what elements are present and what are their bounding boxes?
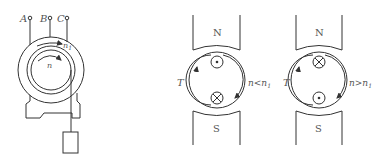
- label-north: N: [315, 27, 324, 38]
- label-south: S: [315, 123, 322, 134]
- label-b: B: [39, 13, 47, 24]
- label-n1: n1: [63, 41, 72, 51]
- label-condition: n>n1: [349, 78, 372, 89]
- hoist-weight: [63, 132, 78, 153]
- label-torque: T: [283, 77, 291, 88]
- terminal-c: [65, 16, 69, 20]
- torque-arc-right: [223, 55, 243, 98]
- torque-arc-left: [186, 55, 211, 105]
- label-north: N: [213, 27, 222, 38]
- motoring-labels: N S T n<n1: [177, 27, 271, 134]
- label-condition: n<n1: [248, 78, 271, 89]
- torque-arrow-left: [196, 67, 197, 72]
- label-n: n: [47, 61, 52, 70]
- label-south: S: [213, 123, 220, 134]
- stator-outer: [18, 37, 84, 103]
- induction-motor-diagram: A B C n1 n N S T n<n1: [0, 0, 381, 162]
- terminal-b: [48, 16, 52, 20]
- rotor-outer: [291, 52, 347, 108]
- torque-arc-right: [325, 55, 345, 98]
- torque-arc-left: [288, 55, 313, 105]
- rotor-outer: [189, 52, 245, 108]
- current-in-cross: [213, 94, 221, 102]
- motor-assembly: [18, 16, 84, 153]
- current-out-dot: [216, 61, 219, 64]
- current-in-cross: [315, 58, 323, 66]
- label-c: C: [57, 13, 65, 24]
- label-torque: T: [177, 77, 185, 88]
- torque-arrow-left: [298, 67, 299, 72]
- label-a: A: [19, 13, 27, 24]
- current-out-dot: [318, 97, 321, 100]
- terminal-a: [28, 16, 32, 20]
